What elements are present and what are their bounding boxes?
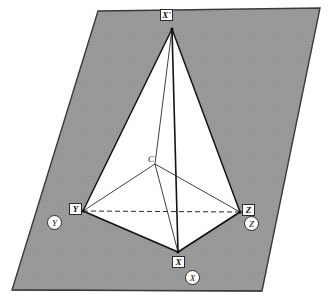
vertex-dot-bottom (176, 250, 179, 253)
circled-label-x: X (185, 270, 200, 285)
vertex-label-right: Z (242, 204, 255, 216)
tetrahedron-reflection-figure (0, 0, 332, 304)
vertex-dot-apex (170, 27, 173, 30)
vertex-label-bottom: X (172, 256, 185, 268)
circled-label-y: Y (47, 215, 62, 230)
vertex-label-left: Y (69, 203, 82, 215)
circled-label-z: Z (244, 216, 259, 231)
vertex-label-center: C (148, 155, 154, 164)
vertex-label-apex: X' (160, 9, 173, 21)
